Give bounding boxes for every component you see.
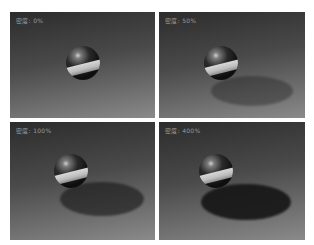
density-label: 密度: 50% (165, 16, 196, 25)
density-label: 密度: 0% (16, 16, 43, 25)
density-label: 密度: 100% (16, 126, 51, 135)
density-label: 密度: 400% (165, 126, 200, 135)
shadow (211, 76, 293, 106)
panel-density-0: 密度: 0% (10, 12, 155, 118)
sphere-band (204, 59, 238, 78)
sphere (66, 46, 100, 80)
sphere (54, 154, 88, 188)
panel-density-100: 密度: 100% (10, 122, 155, 240)
sphere (199, 154, 233, 188)
sphere-band (54, 167, 88, 186)
shadow (201, 184, 291, 220)
sphere-band (199, 167, 233, 186)
panel-density-400: 密度: 400% (159, 122, 305, 240)
sphere (204, 46, 238, 80)
sphere-band (66, 59, 100, 78)
panel-density-50: 密度: 50% (159, 12, 305, 118)
